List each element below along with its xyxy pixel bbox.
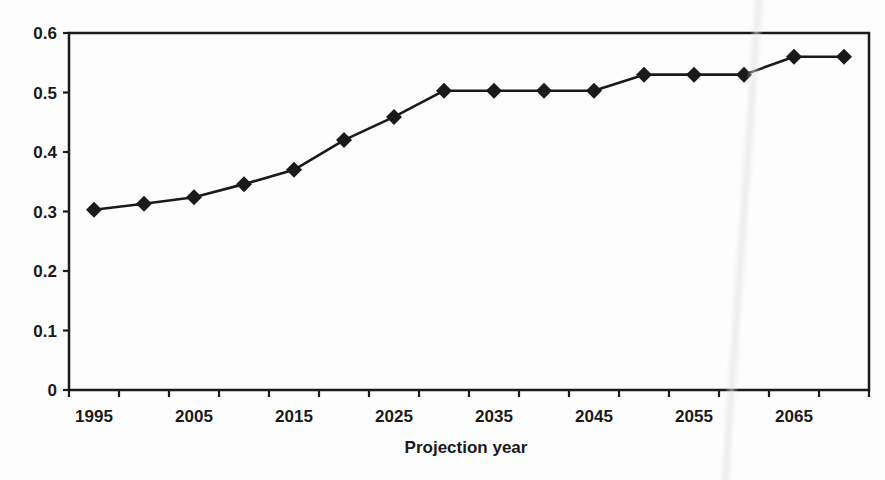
- diamond-marker-icon: [86, 202, 102, 218]
- y-tick-label: 0.5: [33, 84, 57, 103]
- diamond-marker-icon: [436, 83, 452, 99]
- y-axis: 00.10.20.30.40.50.6: [33, 24, 69, 400]
- series-line: [94, 57, 844, 210]
- diamond-marker-icon: [786, 49, 802, 65]
- x-tick-label: 2045: [575, 407, 613, 426]
- x-tick-label: 2015: [275, 407, 313, 426]
- diamond-marker-icon: [836, 49, 852, 65]
- diamond-marker-icon: [536, 83, 552, 99]
- diamond-marker-icon: [486, 83, 502, 99]
- diamond-marker-icon: [736, 67, 752, 83]
- diamond-marker-icon: [236, 176, 252, 192]
- diamond-marker-icon: [636, 67, 652, 83]
- x-tick-label: 2065: [775, 407, 813, 426]
- chart-canvas: 00.10.20.30.40.50.6 19952005201520252035…: [0, 0, 885, 480]
- x-axis: 19952005201520252035204520552065: [69, 390, 869, 426]
- y-tick-label: 0.6: [33, 24, 57, 43]
- x-tick-label: 2005: [175, 407, 213, 426]
- x-tick-label: 2035: [475, 407, 513, 426]
- diamond-marker-icon: [336, 132, 352, 148]
- diamond-marker-icon: [186, 189, 202, 205]
- diamond-marker-icon: [586, 83, 602, 99]
- diamond-marker-icon: [386, 109, 402, 125]
- y-tick-label: 0.3: [33, 203, 57, 222]
- y-tick-label: 0: [48, 381, 57, 400]
- x-tick-label: 2055: [675, 407, 713, 426]
- diamond-marker-icon: [286, 162, 302, 178]
- x-tick-label: 2025: [375, 407, 413, 426]
- y-tick-label: 0.4: [33, 143, 57, 162]
- diamond-marker-icon: [686, 67, 702, 83]
- x-tick-label: 1995: [75, 407, 113, 426]
- data-series: [86, 49, 852, 218]
- x-axis-title: Projection year: [405, 438, 528, 457]
- plot-frame: [69, 33, 869, 390]
- diamond-marker-icon: [136, 196, 152, 212]
- plot-border: [69, 33, 869, 390]
- y-tick-label: 0.2: [33, 262, 57, 281]
- line-chart: 00.10.20.30.40.50.6 19952005201520252035…: [0, 0, 885, 480]
- y-tick-label: 0.1: [33, 322, 57, 341]
